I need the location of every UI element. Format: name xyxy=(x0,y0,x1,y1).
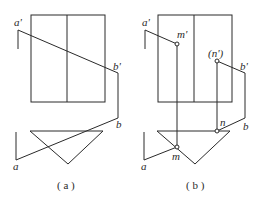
top-view-triangle xyxy=(30,131,103,164)
point-m xyxy=(175,145,179,149)
caption-a: ( a ) xyxy=(57,180,75,191)
line-a-b xyxy=(16,118,118,160)
point-n-prime xyxy=(215,59,219,63)
figure-a-drawing xyxy=(16,15,118,164)
label-n-prime: (n') xyxy=(208,48,223,59)
point-n xyxy=(215,129,219,133)
label-b: b xyxy=(116,119,122,130)
projection-diagram xyxy=(0,0,258,200)
label-a-prime: a' xyxy=(142,17,150,28)
top-view-triangle xyxy=(157,131,230,164)
label-b: b xyxy=(243,121,249,132)
label-a-prime: a' xyxy=(14,17,22,28)
label-b-prime: b' xyxy=(113,61,121,72)
line-a-prime-b-prime xyxy=(18,30,118,73)
front-view-rect xyxy=(31,15,105,102)
caption-b: ( b ) xyxy=(186,180,204,191)
label-m: m xyxy=(172,151,180,162)
label-a: a xyxy=(141,161,147,172)
label-m-prime: m' xyxy=(177,29,187,40)
figure-b-drawing xyxy=(144,15,245,164)
point-m-prime xyxy=(175,42,179,46)
label-a: a xyxy=(13,161,19,172)
label-b-prime: b' xyxy=(240,61,248,72)
label-n: n xyxy=(220,117,226,128)
line-a-prime-m-prime xyxy=(145,30,177,44)
